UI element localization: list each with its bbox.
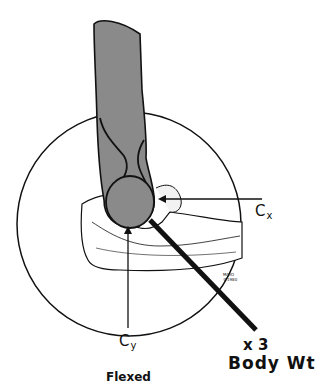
cy-label: Cy	[119, 332, 136, 350]
copyright-line2: ©1980	[223, 277, 237, 282]
figure-caption: Flexed	[106, 370, 151, 384]
body-weight-label: Body Wt	[228, 353, 316, 373]
copyright-mark: MAYO ©1980	[223, 272, 237, 282]
force-multiplier-label: x 3	[243, 336, 268, 354]
cy-label-subscript: y	[130, 340, 136, 351]
cx-label-base: C	[255, 202, 265, 220]
elbow-joint-illustration	[0, 0, 319, 392]
cy-label-base: C	[119, 332, 129, 350]
cx-label: Cx	[255, 202, 272, 220]
cx-label-subscript: x	[266, 210, 272, 221]
